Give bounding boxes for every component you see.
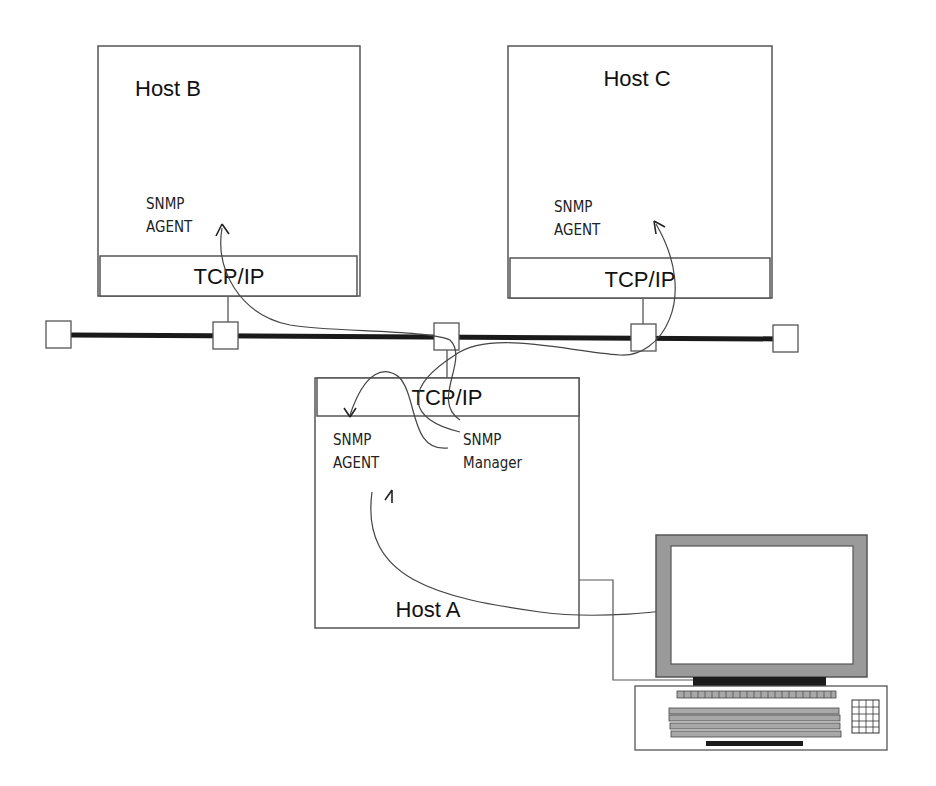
keyboard-row-1 xyxy=(669,708,839,714)
keyboard-numpad xyxy=(852,700,879,733)
host-c-title: Host C xyxy=(603,66,670,91)
bus-terminator-right xyxy=(773,325,798,352)
host-a-manager-line1: SNMP xyxy=(463,431,501,449)
bus-terminator-left xyxy=(46,321,71,348)
keyboard-row-3 xyxy=(670,723,840,729)
bus-node-host-c xyxy=(631,324,656,351)
network-bus xyxy=(46,321,798,352)
workstation xyxy=(635,535,887,750)
host-c-agent-line1: SNMP xyxy=(554,198,592,216)
host-b-agent-line1: SNMP xyxy=(146,195,184,213)
host-c-tcpip-label: TCP/IP xyxy=(605,267,676,292)
keyboard-space-bar xyxy=(706,741,803,746)
monitor-screen xyxy=(671,546,853,664)
monitor-stand xyxy=(693,677,826,686)
host-a-agent-line2: AGENT xyxy=(333,454,380,472)
bus-node-host-b xyxy=(213,322,238,349)
keyboard-row-2 xyxy=(669,715,840,721)
host-a-title: Host A xyxy=(396,597,461,622)
host-c-agent-line2: AGENT xyxy=(554,221,601,239)
snmp-network-diagram: Host B TCP/IP SNMP AGENT Host C TCP/IP S… xyxy=(0,0,936,786)
host-c: Host C TCP/IP SNMP AGENT xyxy=(508,46,772,324)
keyboard-row-4 xyxy=(671,731,841,737)
host-b-title: Host B xyxy=(135,76,201,101)
host-a-agent-line1: SNMP xyxy=(333,431,371,449)
host-a: TCP/IP SNMP AGENT SNMP Manager Host A xyxy=(315,350,579,628)
host-a-tcpip-label: TCP/IP xyxy=(412,385,483,410)
keyboard-function-row xyxy=(677,691,836,698)
host-b-tcpip-label: TCP/IP xyxy=(194,264,265,289)
host-a-manager-line2: Manager xyxy=(463,454,523,472)
host-b-agent-line2: AGENT xyxy=(146,218,193,236)
host-b: Host B TCP/IP SNMP AGENT xyxy=(98,46,360,322)
